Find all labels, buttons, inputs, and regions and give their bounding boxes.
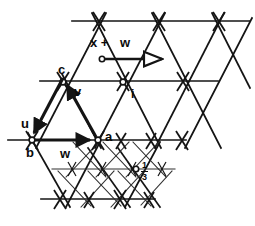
basis-vector-arrows: [34, 78, 96, 140]
vertex-tick: [146, 133, 156, 149]
label-one-third: 1 3: [141, 161, 148, 182]
node-x: [99, 56, 104, 61]
label-u: u: [21, 117, 29, 130]
vertex-tick: [116, 133, 126, 149]
fraction-denominator: 3: [141, 172, 148, 182]
label-b: b: [26, 146, 34, 159]
node-a: [95, 137, 101, 143]
fraction-numerator: 1: [141, 161, 148, 171]
label-w-top: w: [120, 36, 130, 49]
vector-v: [67, 85, 96, 137]
label-v: v: [74, 85, 81, 98]
lattice-svg: [0, 0, 255, 226]
label-x-plus: x +: [90, 36, 108, 49]
label-i: i: [131, 88, 134, 100]
lattice-diagram: x + w c v u b a w i 1 3: [0, 0, 255, 226]
node-i: [120, 79, 126, 85]
label-w-bottom: w: [60, 147, 70, 160]
label-a: a: [105, 130, 112, 143]
label-c: c: [58, 63, 65, 76]
node-third: [133, 166, 138, 171]
